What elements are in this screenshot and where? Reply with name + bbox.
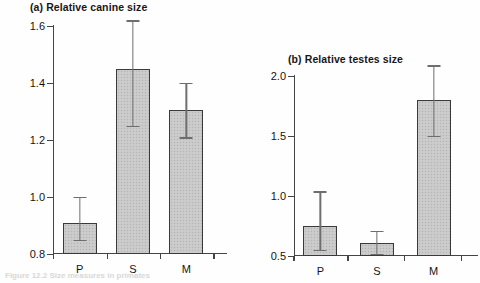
chart-b-title: (b) Relative testes size bbox=[288, 53, 403, 65]
chart-b-ytick-label: 2.0 bbox=[271, 70, 286, 82]
error-bar-stem bbox=[186, 83, 187, 137]
chart-b-ytick-label: 1.0 bbox=[271, 190, 286, 202]
chart-b-y-axis bbox=[294, 75, 295, 256]
error-bar-stem bbox=[320, 191, 321, 250]
error-bar-cap-lower bbox=[127, 126, 140, 127]
chart-a-ytick-label: 0.8 bbox=[30, 248, 45, 260]
chart-b-xtick-mark bbox=[404, 256, 405, 261]
figure-container: (a) Relative canine size 0.81.01.21.41.6… bbox=[0, 0, 480, 283]
chart-b-xtick-label: P bbox=[317, 265, 324, 277]
chart-a-y-axis bbox=[53, 25, 54, 254]
chart-a-xtick-mark bbox=[107, 254, 108, 259]
chart-a-ytick-mark bbox=[47, 140, 53, 141]
error-bar-stem bbox=[433, 65, 434, 136]
error-bar-cap-upper bbox=[73, 197, 86, 198]
chart-b-ytick-mark bbox=[288, 196, 294, 197]
chart-a-xtick-mark bbox=[213, 254, 214, 259]
chart-b-xtick-mark bbox=[461, 256, 462, 261]
chart-a-xtick-mark bbox=[160, 254, 161, 259]
error-bar-cap-upper bbox=[180, 83, 193, 84]
chart-b-ytick-mark bbox=[288, 136, 294, 137]
error-bar-cap-lower bbox=[314, 250, 327, 251]
chart-a-ytick-mark bbox=[47, 197, 53, 198]
figure-caption: Figure 12.2 Size measures in primates bbox=[5, 271, 305, 282]
error-bar-cap-lower bbox=[180, 137, 193, 138]
chart-b-xtick-mark bbox=[293, 256, 294, 261]
chart-a-ytick-label: 1.6 bbox=[30, 20, 45, 32]
chart-panel-a: (a) Relative canine size 0.81.01.21.41.6… bbox=[0, 0, 230, 275]
chart-a-title: (a) Relative canine size bbox=[30, 1, 147, 13]
error-bar-cap-lower bbox=[427, 136, 440, 137]
chart-a-xtick-mark bbox=[53, 254, 54, 259]
chart-b-plot-area: 0.51.01.52.0 PSM bbox=[294, 76, 464, 256]
error-bar-stem bbox=[79, 197, 80, 240]
chart-a-ytick-label: 1.0 bbox=[30, 191, 45, 203]
error-bar-cap-upper bbox=[427, 65, 440, 66]
chart-a-ytick-label: 1.2 bbox=[30, 134, 45, 146]
error-bar-cap-upper bbox=[127, 20, 140, 21]
chart-panel-b: (b) Relative testes size 0.51.01.52.0 PS… bbox=[245, 50, 480, 275]
chart-a-ytick-mark bbox=[47, 83, 53, 84]
chart-b-ytick-label: 1.5 bbox=[271, 130, 286, 142]
chart-b-xtick-mark bbox=[347, 256, 348, 261]
error-bar-stem bbox=[376, 231, 377, 254]
error-bar-cap-upper bbox=[371, 231, 384, 232]
chart-a-ytick-mark bbox=[47, 26, 53, 27]
error-bar-cap-upper bbox=[314, 191, 327, 192]
chart-a-ytick-label: 1.4 bbox=[30, 77, 45, 89]
error-bar-cap-lower bbox=[371, 254, 384, 255]
chart-b-xtick-label: S bbox=[373, 265, 380, 277]
error-bar-stem bbox=[132, 20, 133, 125]
chart-b-ytick-label: 0.5 bbox=[271, 250, 286, 262]
chart-b-ytick-mark bbox=[288, 76, 294, 77]
error-bar-cap-lower bbox=[73, 240, 86, 241]
chart-a-plot-area: 0.81.01.21.41.6 PSM bbox=[53, 26, 213, 254]
chart-b-xtick-label: M bbox=[429, 265, 438, 277]
